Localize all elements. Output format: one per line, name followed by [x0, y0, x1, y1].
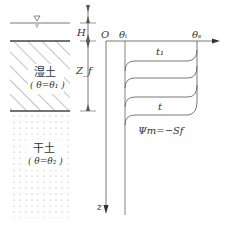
origin-label: O — [101, 30, 109, 40]
theta-axis-arrow-icon — [212, 39, 220, 44]
dry-soil-condition: ( θ=θ₂ ) — [28, 157, 63, 166]
wet-soil-condition: ( θ=θ₁ ) — [30, 81, 65, 90]
curve-t-label: t — [158, 102, 162, 112]
wetting-front-depth-label: Z_f — [76, 66, 92, 76]
wet-soil-label: 湿土 — [34, 67, 56, 78]
theta-i-label: θᵢ — [119, 30, 127, 40]
depth-axis-arrow-icon — [104, 205, 109, 214]
water-level-icon — [34, 16, 40, 21]
curve-t1-label: t₁ — [156, 47, 164, 57]
theta-s-label: θₛ — [192, 30, 201, 40]
depth-axis-label: z — [97, 203, 102, 212]
ponding-depth-label: H — [77, 28, 86, 38]
suction-annotation: Ψm=−Sf — [138, 126, 184, 136]
dry-soil-label: 干土 — [33, 143, 55, 154]
